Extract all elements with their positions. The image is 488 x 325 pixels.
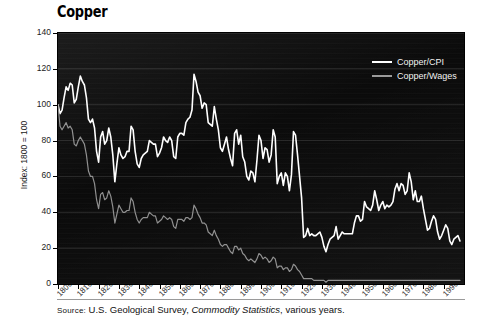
y-tick-label: 140 xyxy=(27,27,51,37)
source-publication: Commodity Statistics xyxy=(191,304,280,315)
legend-swatch xyxy=(372,61,392,63)
legend-swatch xyxy=(372,75,392,77)
legend-label: Copper/Wages xyxy=(397,71,457,81)
y-tick-label: 80 xyxy=(27,135,51,145)
y-tick-label: 100 xyxy=(27,99,51,109)
legend-item: Copper/Wages xyxy=(372,69,457,83)
chart-figure: Copper Index: 1800 = 100 020406080100120… xyxy=(0,0,488,325)
source-note: Source: U.S. Geological Survey, Commodit… xyxy=(57,304,345,315)
y-tick-label: 60 xyxy=(27,170,51,180)
chart-legend: Copper/CPICopper/Wages xyxy=(372,55,457,83)
y-tick-label: 40 xyxy=(27,206,51,216)
legend-item: Copper/CPI xyxy=(372,55,457,69)
series-line-copper-wages xyxy=(58,105,460,283)
y-tick-label: 0 xyxy=(27,278,51,288)
chart-title: Copper xyxy=(57,3,107,21)
source-label: Source: xyxy=(57,306,86,315)
series-line-copper-cpi xyxy=(58,74,460,251)
source-text-before: U.S. Geological Survey, xyxy=(86,304,191,315)
y-tick-label: 20 xyxy=(27,242,51,252)
legend-label: Copper/CPI xyxy=(397,57,444,67)
source-divider xyxy=(57,299,465,300)
source-text-after: , various years. xyxy=(280,304,344,315)
y-tick-label: 120 xyxy=(27,63,51,73)
